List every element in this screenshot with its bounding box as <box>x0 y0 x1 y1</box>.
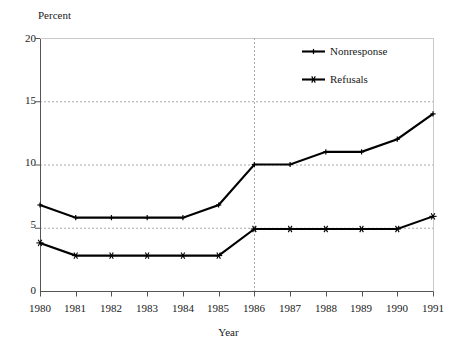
series-nonresponse <box>37 111 435 220</box>
series-refusals <box>36 213 436 258</box>
line-chart: Percent 20 15 10 5 0 1980 1981 1982 1983… <box>0 0 457 349</box>
grid-lines <box>35 39 433 229</box>
plot-frame <box>40 38 434 297</box>
plot-canvas <box>0 0 457 349</box>
legend-markers <box>302 49 325 83</box>
